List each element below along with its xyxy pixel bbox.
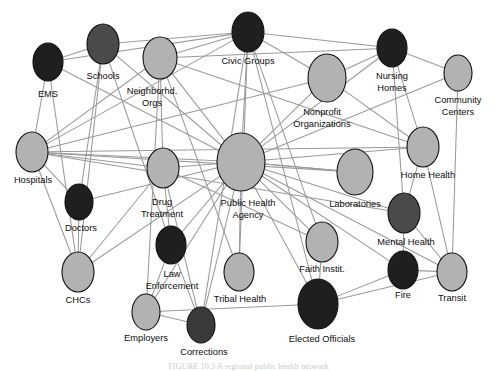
network-graph-canvas: EMSSchoolsNeighborhd.OrgsCivic GroupsNur… [0, 0, 497, 371]
network-edge [338, 276, 438, 300]
node-label-mental_health: Mental Health [377, 237, 434, 247]
network-node-law_enforcement[interactable] [156, 226, 186, 264]
network-node-drug_treatment[interactable] [147, 148, 179, 188]
network-node-tribal_health[interactable] [224, 253, 254, 291]
network-edge [176, 64, 407, 142]
figure-caption: FIGURE 10.3 A regional public health net… [0, 361, 497, 371]
node-label-chcs: CHCs [66, 295, 91, 305]
network-edge [35, 81, 44, 133]
node-label-home_health: Home Health [401, 170, 455, 180]
network-node-fire[interactable] [388, 251, 418, 289]
network-edge [177, 49, 377, 58]
node-label-fire: Fire [395, 290, 411, 300]
network-edge [89, 182, 151, 258]
network-node-neighborhood_orgs[interactable] [143, 37, 177, 79]
node-label-neighborhood_orgs: Neighborhd.Orgs [127, 86, 178, 108]
network-node-mental_health[interactable] [388, 193, 420, 233]
node-label-ems: EMS [38, 89, 58, 99]
network-edge [82, 64, 100, 185]
network-node-community_centers[interactable] [444, 55, 472, 91]
node-label-drug_treatment: DrugTreatment [141, 197, 183, 219]
network-node-civic_groups[interactable] [232, 12, 264, 52]
network-node-nursing_homes[interactable] [377, 29, 407, 67]
network-edge [179, 164, 217, 167]
network-node-elected_officials[interactable] [298, 279, 338, 329]
network-node-schools[interactable] [87, 24, 119, 64]
node-label-hospitals: Hospitals [14, 175, 53, 185]
node-label-nonprofit_orgs: NonprofitOrganizations [293, 107, 351, 129]
network-node-home_health[interactable] [407, 127, 439, 167]
node-label-employers: Employers [124, 333, 168, 343]
node-label-laboratories: Laboratories [329, 199, 381, 209]
node-label-faith_instit: Faith Instit. [299, 264, 344, 274]
network-edge [418, 271, 437, 272]
network-edge [265, 148, 407, 160]
node-label-corrections: Corrections [180, 347, 228, 357]
node-label-schools: Schools [86, 71, 119, 81]
network-edge [160, 315, 187, 322]
network-edge [160, 305, 298, 311]
network-node-chcs[interactable] [62, 252, 94, 292]
node-label-transit: Transit [438, 293, 466, 303]
network-node-faith_instit[interactable] [306, 222, 338, 262]
network-edge [406, 53, 444, 67]
network-node-doctors[interactable] [65, 184, 93, 220]
network-edge [264, 34, 377, 47]
network-node-corrections[interactable] [187, 307, 215, 343]
network-node-public_health_agency[interactable] [217, 133, 265, 191]
node-label-doctors: Doctors [65, 223, 97, 233]
network-node-transit[interactable] [437, 253, 467, 291]
network-node-laboratories[interactable] [337, 149, 373, 195]
node-label-civic_groups: Civic Groups [221, 56, 275, 66]
network-diagram-figure: EMSSchoolsNeighborhd.OrgsCivic GroupsNur… [0, 0, 497, 371]
network-node-employers[interactable] [132, 294, 160, 330]
node-label-community_centers: CommunityCenters [434, 95, 481, 117]
node-label-tribal_health: Tribal Health [214, 294, 266, 304]
node-label-elected_officials: Elected Officials [289, 334, 356, 344]
network-edge [63, 49, 88, 57]
network-node-hospitals[interactable] [16, 132, 48, 172]
network-node-nonprofit_orgs[interactable] [308, 54, 346, 102]
node-label-nursing_homes: NursingHomes [376, 71, 408, 93]
network-node-ems[interactable] [33, 43, 63, 81]
node-label-law_enforcement: LawEnforcement [146, 269, 199, 291]
